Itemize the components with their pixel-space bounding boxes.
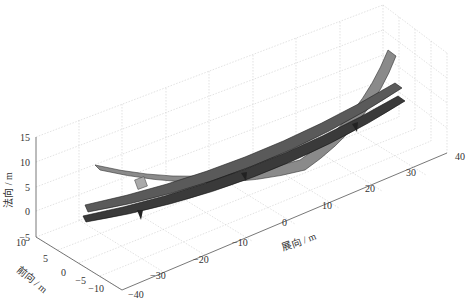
y-axis-label: 前向 / m xyxy=(15,263,50,295)
svg-text:−10: −10 xyxy=(88,283,104,294)
svg-text:30: 30 xyxy=(406,167,416,178)
middle-blade-surface xyxy=(85,83,402,212)
svg-text:10: 10 xyxy=(16,237,26,248)
svg-text:40: 40 xyxy=(455,151,465,162)
svg-text:0: 0 xyxy=(282,217,287,228)
svg-text:0: 0 xyxy=(61,267,66,278)
surface-plot: 15 10 5 0 −5 10 5 0 −5 −10 −40 −30 −20 −… xyxy=(0,0,469,302)
svg-text:10: 10 xyxy=(322,200,332,211)
svg-text:5: 5 xyxy=(25,182,30,193)
svg-text:15: 15 xyxy=(20,132,30,143)
svg-text:20: 20 xyxy=(365,183,375,194)
svg-text:10: 10 xyxy=(20,157,30,168)
svg-text:0: 0 xyxy=(25,206,30,217)
svg-text:5: 5 xyxy=(43,253,48,264)
svg-text:−40: −40 xyxy=(128,289,144,300)
y-ticks: 10 5 0 −5 −10 xyxy=(16,237,104,294)
z-axis-label: 法向 / m xyxy=(2,172,14,208)
z-ticks: 15 10 5 0 −5 xyxy=(19,132,30,243)
chart-container: 15 10 5 0 −5 10 5 0 −5 −10 −40 −30 −20 −… xyxy=(0,0,469,302)
svg-text:−5: −5 xyxy=(75,275,86,286)
svg-text:−10: −10 xyxy=(232,237,248,248)
svg-text:−20: −20 xyxy=(193,254,209,265)
svg-text:−30: −30 xyxy=(150,270,166,281)
x-axis-label: 展向 / m xyxy=(280,229,318,253)
x-ticks: −40 −30 −20 −10 0 10 20 30 40 xyxy=(128,151,465,300)
